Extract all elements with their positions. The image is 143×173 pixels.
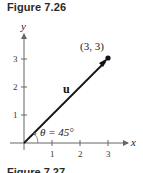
x-tick-3: 3 <box>106 149 111 159</box>
next-figure-title: Figure 7.27 <box>7 166 65 173</box>
y-tick-3: 3 <box>13 54 18 64</box>
x-axis-label: x <box>130 136 136 148</box>
angle-label: θ = 45° <box>40 126 74 138</box>
point-label: (3, 3) <box>80 40 104 53</box>
angle-marker: θ = 45° <box>34 126 74 143</box>
x-axis: x 1 2 3 <box>10 136 136 159</box>
vector-label: u <box>63 82 70 96</box>
vector-diagram: y 1 2 3 x 1 2 3 u (3, 3) θ = 45° <box>0 0 143 173</box>
point-marker <box>105 55 110 60</box>
x-tick-2: 2 <box>78 149 83 159</box>
y-tick-2: 2 <box>13 82 18 92</box>
y-axis-label: y <box>20 20 26 32</box>
x-tick-1: 1 <box>50 149 55 159</box>
y-axis: y 1 2 3 <box>13 20 27 150</box>
y-tick-1: 1 <box>13 110 18 120</box>
